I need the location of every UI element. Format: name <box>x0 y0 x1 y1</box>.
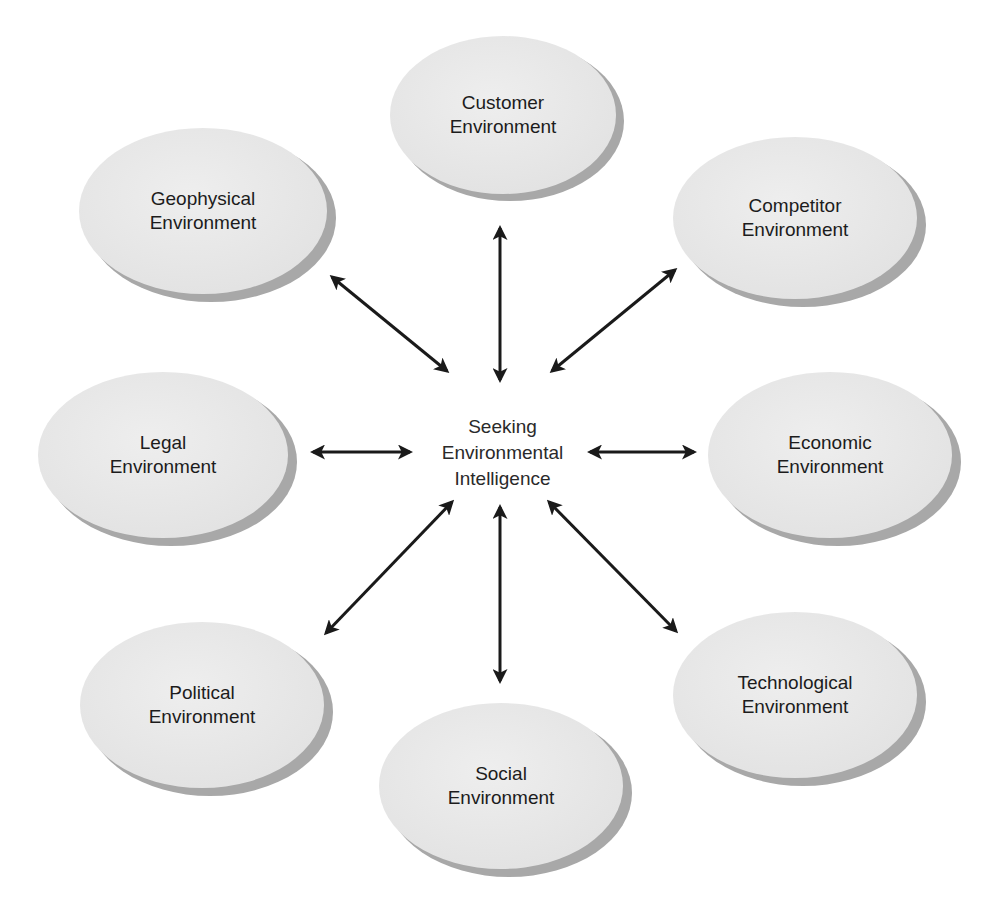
arrow-technological <box>549 502 676 631</box>
arrow-competitor <box>552 270 675 371</box>
ellipse-competitor <box>673 137 926 307</box>
center-label-line1: Seeking <box>468 414 537 440</box>
ellipse-technological <box>673 612 926 786</box>
ellipse-political <box>80 622 333 796</box>
center-label: Seeking Environmental Intelligence <box>400 408 605 498</box>
arrow-geophysical <box>332 277 447 371</box>
arrow-political <box>326 502 452 633</box>
ellipse-economic <box>708 372 961 546</box>
ellipse-geophysical <box>79 128 336 302</box>
center-label-line3: Intelligence <box>454 466 550 492</box>
ellipse-social <box>379 703 632 877</box>
ellipse-customer <box>390 36 624 201</box>
ellipse-legal <box>38 372 297 546</box>
center-label-line2: Environmental <box>442 440 563 466</box>
